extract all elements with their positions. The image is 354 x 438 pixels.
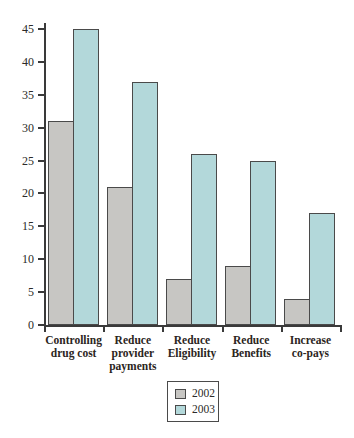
legend-swatch-2003 bbox=[175, 405, 186, 415]
bar-2002-group1 bbox=[48, 121, 74, 325]
y-tick-15 bbox=[38, 225, 44, 227]
y-tick-label-15: 15 bbox=[8, 220, 34, 232]
y-tick-label-25: 25 bbox=[8, 155, 34, 167]
legend-item-2002: 2002 bbox=[175, 387, 218, 400]
bar-2002-group4 bbox=[225, 266, 251, 325]
bar-chart-figure: 051015202530354045Controlling drug costR… bbox=[0, 0, 354, 438]
x-tick-5 bbox=[340, 325, 342, 332]
y-tick-45 bbox=[38, 28, 44, 30]
y-tick-40 bbox=[38, 61, 44, 63]
legend-item-2003: 2003 bbox=[175, 403, 218, 416]
y-tick-35 bbox=[38, 94, 44, 96]
y-tick-10 bbox=[38, 258, 44, 260]
bar-2003-group4 bbox=[250, 161, 276, 325]
y-axis bbox=[44, 23, 46, 327]
x-tick-3 bbox=[222, 325, 224, 332]
legend-label-2003: 2003 bbox=[192, 403, 215, 416]
bar-2003-group2 bbox=[132, 82, 158, 325]
legend-swatch-2002 bbox=[175, 389, 186, 399]
x-tick-1 bbox=[103, 325, 105, 332]
bar-2003-group1 bbox=[73, 29, 99, 325]
bar-2002-group5 bbox=[284, 299, 310, 325]
bar-2003-group3 bbox=[191, 154, 217, 325]
y-tick-20 bbox=[38, 192, 44, 194]
bar-2002-group3 bbox=[166, 279, 192, 325]
y-tick-30 bbox=[38, 127, 44, 129]
y-tick-label-0: 0 bbox=[8, 319, 34, 331]
y-tick-label-10: 10 bbox=[8, 253, 34, 265]
y-tick-label-30: 30 bbox=[8, 122, 34, 134]
y-tick-label-40: 40 bbox=[8, 56, 34, 68]
y-tick-label-35: 35 bbox=[8, 89, 34, 101]
y-tick-5 bbox=[38, 291, 44, 293]
y-tick-label-20: 20 bbox=[8, 187, 34, 199]
bar-2002-group2 bbox=[107, 187, 133, 325]
y-tick-label-45: 45 bbox=[8, 23, 34, 35]
x-axis bbox=[44, 325, 342, 327]
x-tick-0 bbox=[44, 325, 46, 332]
x-tick-2 bbox=[162, 325, 164, 332]
bar-2003-group5 bbox=[309, 213, 335, 325]
legend-label-2002: 2002 bbox=[192, 387, 215, 400]
category-label-5: Increase co-pays bbox=[273, 334, 347, 360]
legend: 2002 2003 bbox=[167, 381, 219, 422]
y-tick-25 bbox=[38, 160, 44, 162]
y-tick-label-5: 5 bbox=[8, 286, 34, 298]
x-tick-4 bbox=[281, 325, 283, 332]
